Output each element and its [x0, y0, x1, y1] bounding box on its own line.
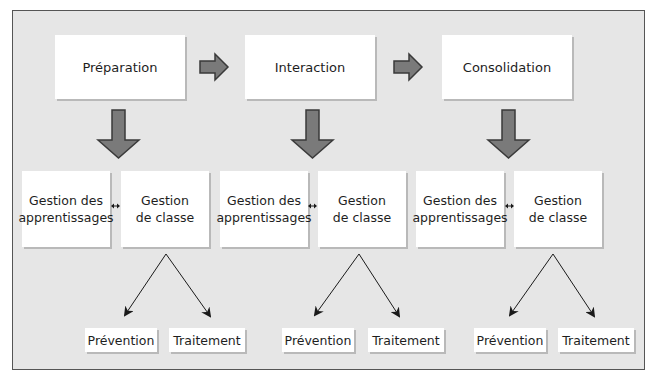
double-arrow-icon: [505, 204, 514, 209]
right-arrow-icon: [200, 54, 228, 80]
arrows-layer: [0, 0, 657, 386]
down-arrow-icon: [292, 110, 333, 158]
down-arrow-icon: [98, 110, 139, 158]
branch-arrows: [125, 254, 594, 316]
double-arrow-icon: [308, 204, 317, 209]
double-arrow-icon: [111, 204, 120, 209]
down-arrow-icon: [488, 110, 529, 158]
right-arrow-icon: [394, 54, 422, 80]
